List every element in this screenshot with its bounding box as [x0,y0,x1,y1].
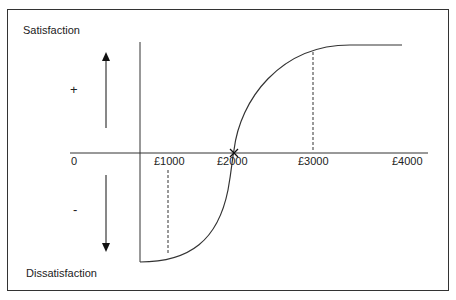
label-dissatisfaction: Dissatisfaction [26,267,97,279]
up-arrow-icon [102,52,110,128]
diagram-canvas [0,0,456,300]
label-plus: + [70,82,78,97]
tick-4000: £4000 [392,155,423,167]
label-origin: 0 [71,155,77,167]
label-minus: - [73,202,77,217]
tick-3000: £3000 [298,155,329,167]
label-satisfaction: Satisfaction [23,24,80,36]
tick-1000: £1000 [154,155,185,167]
tick-2000: £2000 [217,155,248,167]
down-arrow-icon [102,175,110,252]
